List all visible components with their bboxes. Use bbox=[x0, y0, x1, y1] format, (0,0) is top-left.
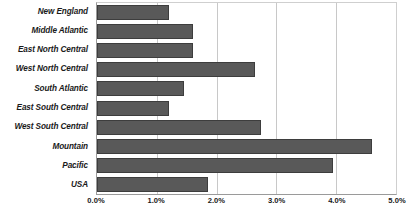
bar bbox=[97, 43, 193, 58]
x-tick-label: 2.0% bbox=[208, 197, 225, 205]
value-axis: 0.0%1.0%2.0%3.0%4.0%5.0% bbox=[96, 197, 397, 211]
category-label-usa: USA bbox=[0, 176, 92, 195]
category-label-mountain: Mountain bbox=[0, 137, 92, 156]
bar bbox=[97, 120, 261, 135]
bar-row bbox=[97, 118, 396, 137]
bar-row bbox=[97, 41, 396, 60]
x-tick-label: 0.0% bbox=[87, 197, 104, 205]
bar-series bbox=[97, 3, 396, 194]
bar-row bbox=[97, 98, 396, 117]
category-label-west-south-central: West South Central bbox=[0, 118, 92, 137]
bar bbox=[97, 62, 255, 77]
bar-row bbox=[97, 60, 396, 79]
bar-row bbox=[97, 3, 396, 22]
bar bbox=[97, 177, 208, 192]
bar-row bbox=[97, 175, 396, 194]
x-tick-label: 4.0% bbox=[328, 197, 345, 205]
bar bbox=[97, 5, 169, 20]
bar bbox=[97, 139, 372, 154]
bar bbox=[97, 101, 169, 116]
category-label-pacific: Pacific bbox=[0, 156, 92, 175]
category-label-middle-atlantic: Middle Atlantic bbox=[0, 21, 92, 40]
bar-chart: New England Middle Atlantic East North C… bbox=[0, 0, 411, 223]
x-tick-label: 5.0% bbox=[388, 197, 405, 205]
bar bbox=[97, 158, 333, 173]
category-label-south-atlantic: South Atlantic bbox=[0, 79, 92, 98]
category-label-new-england: New England bbox=[0, 2, 92, 21]
bar-row bbox=[97, 137, 396, 156]
bar-row bbox=[97, 79, 396, 98]
bar-row bbox=[97, 156, 396, 175]
category-axis: New England Middle Atlantic East North C… bbox=[0, 2, 92, 195]
category-label-west-north-central: West North Central bbox=[0, 60, 92, 79]
bar bbox=[97, 81, 184, 96]
category-label-east-south-central: East South Central bbox=[0, 98, 92, 117]
x-tick-label: 1.0% bbox=[148, 197, 165, 205]
x-tick-label: 3.0% bbox=[268, 197, 285, 205]
plot-area bbox=[96, 2, 397, 195]
bar-row bbox=[97, 22, 396, 41]
category-label-east-north-central: East North Central bbox=[0, 41, 92, 60]
bar bbox=[97, 24, 193, 39]
